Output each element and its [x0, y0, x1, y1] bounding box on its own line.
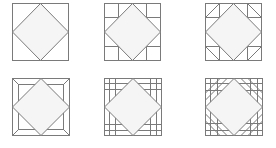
tile-corner-triangles [205, 3, 262, 61]
tile-corner-squares [104, 3, 161, 61]
corner-triangles-icon [205, 3, 262, 61]
tile-grid-with-diagonals [205, 78, 263, 136]
corner-squares-icon [104, 3, 161, 61]
plain-diamond-icon [12, 3, 69, 61]
grid-diagonals-icon [205, 78, 263, 136]
mitered-frame-icon [12, 78, 70, 136]
tile-plain-diamond [12, 3, 69, 61]
tile-mitered-frame [12, 78, 70, 136]
tile-double-grid [104, 78, 162, 136]
double-grid-icon [104, 78, 162, 136]
